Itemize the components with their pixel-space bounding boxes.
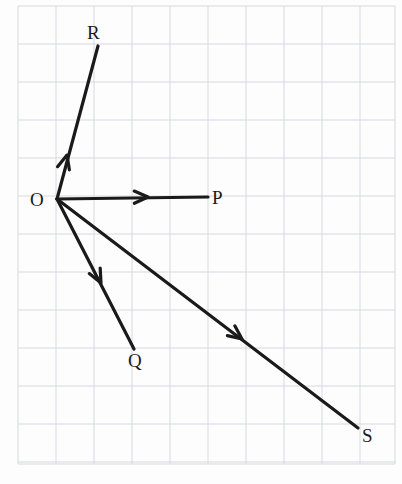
figure-canvas: PRQSO [0,0,402,484]
origin-label-o: O [30,189,44,210]
vector-endpoint-label-p: P [212,187,223,208]
vector-shaft [57,197,208,199]
vector-diagram-svg: PRQSO [0,0,402,484]
paper-background [0,0,402,484]
vector-endpoint-label-r: R [87,22,100,43]
vector-endpoint-label-s: S [362,425,373,446]
vector-endpoint-label-q: Q [128,350,142,371]
